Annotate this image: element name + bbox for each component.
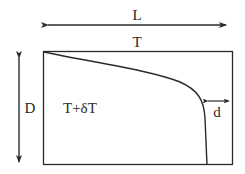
interior-temperature-label: T+δT [63,100,97,116]
gap-label: d [213,104,221,120]
length-label: L [132,7,141,23]
diagram-canvas: L T D T+δT d [0,0,245,174]
depth-label: D [25,100,36,116]
top-temperature-label: T [132,34,141,50]
